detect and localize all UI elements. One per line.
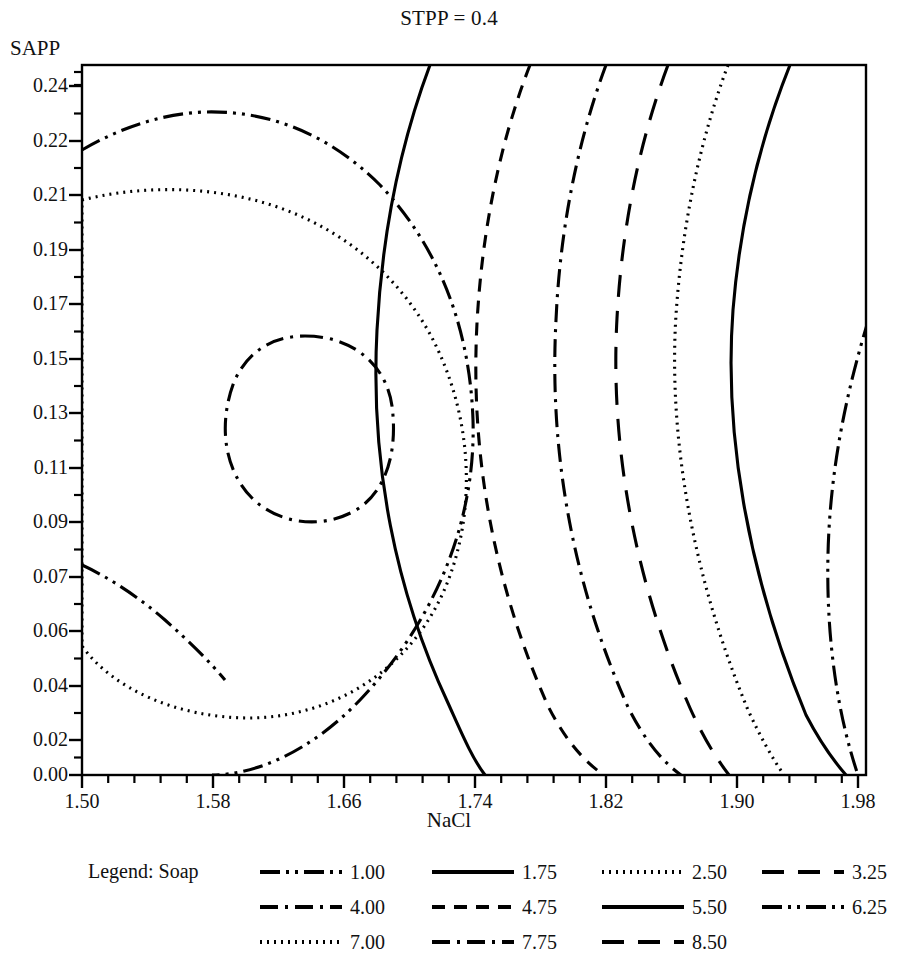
y-tick-label: 0.17 xyxy=(4,293,68,313)
legend-line-swatch-5-50 xyxy=(600,895,686,919)
legend-level-label: 1.00 xyxy=(350,861,385,884)
y-tick-label: 0.07 xyxy=(4,566,68,586)
legend-level-label: 4.00 xyxy=(350,896,385,919)
plot-canvas xyxy=(0,0,898,978)
x-tick-label: 1.50 xyxy=(42,791,122,811)
y-tick-label: 0.06 xyxy=(4,620,68,640)
contour-line-2-50 xyxy=(675,65,784,775)
y-tick-label: 0.19 xyxy=(4,239,68,259)
legend-line-swatch-1-75 xyxy=(430,860,516,884)
contour-line-1-75 xyxy=(731,65,846,775)
x-tick-label: 1.90 xyxy=(697,791,777,811)
x-tick-label: 1.66 xyxy=(304,791,384,811)
y-tick-label: 0.09 xyxy=(4,511,68,531)
x-tick-label: 1.58 xyxy=(173,791,253,811)
legend-level-label: 7.75 xyxy=(522,931,557,954)
legend: Legend: Soap 1.001.752.503.254.004.755.5… xyxy=(0,855,898,965)
y-tick-label: 0.02 xyxy=(4,729,68,749)
y-tick-label: 0.21 xyxy=(4,184,68,204)
legend-line-swatch-2-50 xyxy=(600,860,686,884)
contour-line-7-75 xyxy=(225,336,393,522)
legend-line-swatch-7-75 xyxy=(430,930,516,954)
contour-line-4-75 xyxy=(476,65,604,775)
legend-level-label: 2.50 xyxy=(692,861,727,884)
y-tick-label: 0.11 xyxy=(4,457,68,477)
legend-level-label: 7.00 xyxy=(350,931,385,954)
legend-line-swatch-4-75 xyxy=(430,895,516,919)
legend-line-swatch-6-25 xyxy=(760,895,846,919)
legend-line-swatch-8-50 xyxy=(600,930,686,954)
y-tick-label: 0.24 xyxy=(4,75,68,95)
legend-line-swatch-1-00 xyxy=(258,860,344,884)
legend-level-label: 5.50 xyxy=(692,896,727,919)
x-tick-label: 1.98 xyxy=(818,791,898,811)
contour-line-7-00 xyxy=(82,190,466,718)
legend-level-label: 6.25 xyxy=(852,896,887,919)
contour-plot-figure: STPP = 0.4 SAPP NaCl 0.240.220.210.190.1… xyxy=(0,0,898,978)
contour-line-1-00 xyxy=(828,318,869,775)
y-tick-label: 0.04 xyxy=(4,675,68,695)
y-tick-label: 0.22 xyxy=(4,130,68,150)
axis-ticks-group xyxy=(69,72,858,788)
contour-line-6-25 xyxy=(82,112,473,775)
legend-line-swatch-3-25 xyxy=(760,860,846,884)
legend-level-label: 3.25 xyxy=(852,861,887,884)
contour-line-3-25 xyxy=(616,65,729,775)
legend-title: Legend: Soap xyxy=(88,860,199,883)
y-tick-label: 0.00 xyxy=(4,764,68,784)
y-tick-label: 0.15 xyxy=(4,348,68,368)
contour-line-5-50 xyxy=(376,65,485,775)
legend-line-swatch-7-00 xyxy=(258,930,344,954)
legend-line-swatch-4-00 xyxy=(258,895,344,919)
legend-level-label: 1.75 xyxy=(522,861,557,884)
contour-lines-group xyxy=(82,65,869,775)
y-tick-label: 0.13 xyxy=(4,402,68,422)
x-tick-label: 1.82 xyxy=(566,791,646,811)
legend-level-label: 4.75 xyxy=(522,896,557,919)
x-tick-label: 1.74 xyxy=(435,791,515,811)
legend-level-label: 8.50 xyxy=(692,931,727,954)
